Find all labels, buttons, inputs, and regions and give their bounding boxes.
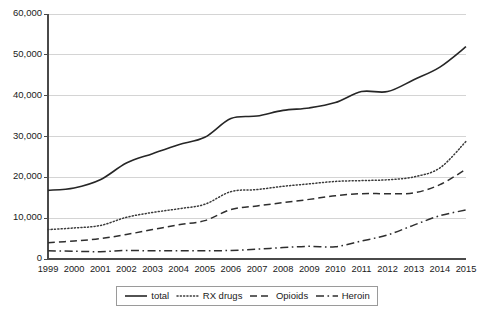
- y-tick-label-60000: 60,000: [0, 8, 42, 18]
- x-tick-label-2001: 2001: [87, 264, 113, 274]
- x-tick-label-2012: 2012: [375, 264, 401, 274]
- y-tick-label-0: 0: [0, 253, 42, 263]
- legend-entry-total: total: [124, 291, 169, 301]
- legend-label-total: total: [151, 291, 169, 301]
- series-line-rx-drugs: [48, 141, 466, 229]
- y-tick-label-40000: 40,000: [0, 90, 42, 100]
- x-tick-label-2005: 2005: [192, 264, 218, 274]
- legend-entry-opioids: Opioids: [249, 291, 308, 301]
- x-tick-label-2007: 2007: [244, 264, 270, 274]
- x-tick-label-2006: 2006: [218, 264, 244, 274]
- legend-swatch-solid-line: [124, 291, 148, 301]
- series-line-opioids: [48, 169, 466, 243]
- x-tick-label-2013: 2013: [401, 264, 427, 274]
- x-tick-label-2002: 2002: [113, 264, 139, 274]
- x-tick-label-2010: 2010: [322, 264, 348, 274]
- legend-swatch-dashed-line: [249, 291, 273, 301]
- y-tick-label-50000: 50,000: [0, 49, 42, 59]
- legend-swatch-dotted-line: [176, 291, 200, 301]
- y-tick-label-10000: 10,000: [0, 212, 42, 222]
- legend-label-heroin: Heroin: [342, 291, 370, 301]
- x-tick-label-2015: 2015: [453, 264, 479, 274]
- y-tick-label-20000: 20,000: [0, 171, 42, 181]
- legend-swatch-dash-dot-line: [315, 291, 339, 301]
- legend-label-rx-drugs: RX drugs: [203, 291, 243, 301]
- x-tick-label-2009: 2009: [296, 264, 322, 274]
- line-chart: 010,00020,00030,00040,00050,00060,000 19…: [0, 0, 489, 314]
- legend-entry-heroin: Heroin: [315, 291, 370, 301]
- x-tick-label-2004: 2004: [166, 264, 192, 274]
- series-line-heroin: [48, 210, 466, 252]
- x-tick-label-1999: 1999: [35, 264, 61, 274]
- x-tick-label-2008: 2008: [270, 264, 296, 274]
- x-tick-label-2014: 2014: [427, 264, 453, 274]
- data-series-group: [48, 47, 466, 252]
- legend-entry-rx-drugs: RX drugs: [176, 291, 243, 301]
- legend-label-opioids: Opioids: [276, 291, 308, 301]
- chart-legend: totalRX drugsOpioidsHeroin: [116, 286, 378, 306]
- x-tick-label-2003: 2003: [140, 264, 166, 274]
- series-line-total: [48, 47, 466, 191]
- x-tick-label-2011: 2011: [349, 264, 375, 274]
- x-tick-label-2000: 2000: [61, 264, 87, 274]
- y-tick-label-30000: 30,000: [0, 131, 42, 141]
